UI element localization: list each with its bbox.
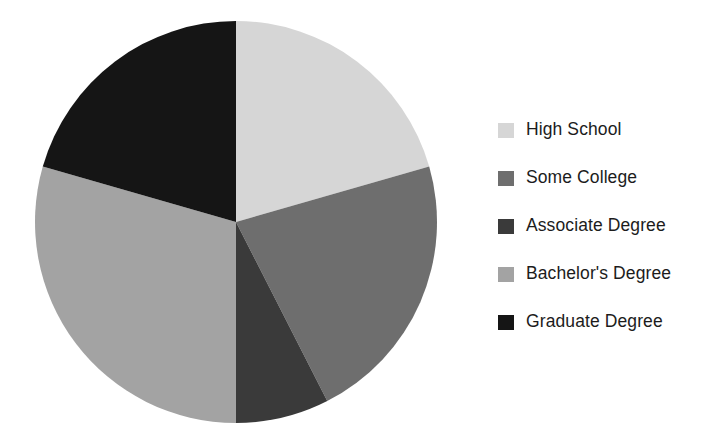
legend-swatch-graduate-degree — [498, 315, 514, 330]
legend-label-bachelors-degree: Bachelor's Degree — [526, 265, 671, 283]
legend-label-high-school: High School — [526, 121, 621, 139]
legend-item-graduate-degree[interactable]: Graduate Degree — [498, 298, 713, 346]
legend-label-graduate-degree: Graduate Degree — [526, 313, 663, 331]
pie-slice-group — [35, 21, 437, 423]
legend-swatch-associate-degree — [498, 219, 514, 234]
legend-label-associate-degree: Associate Degree — [526, 217, 666, 235]
legend-swatch-some-college — [498, 171, 514, 186]
pie-chart-page: High School Some College Associate Degre… — [0, 0, 723, 443]
legend-label-some-college: Some College — [526, 169, 637, 187]
chart-legend: High School Some College Associate Degre… — [498, 106, 713, 346]
chart-plot-area — [0, 0, 480, 443]
legend-item-high-school[interactable]: High School — [498, 106, 713, 154]
legend-swatch-bachelors-degree — [498, 267, 514, 282]
legend-swatch-high-school — [498, 123, 514, 138]
legend-item-associate-degree[interactable]: Associate Degree — [498, 202, 713, 250]
pie-chart-svg — [0, 0, 480, 443]
legend-item-some-college[interactable]: Some College — [498, 154, 713, 202]
legend-item-bachelors-degree[interactable]: Bachelor's Degree — [498, 250, 713, 298]
